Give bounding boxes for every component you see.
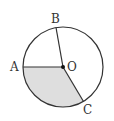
label-b: B xyxy=(51,12,60,26)
diagram-canvas: B A O C xyxy=(0,0,114,121)
label-a: A xyxy=(9,60,19,74)
circle-diagram: B A O C xyxy=(0,0,114,121)
label-o: O xyxy=(67,60,77,74)
radius-ob xyxy=(56,28,63,68)
center-point-o xyxy=(61,65,65,69)
label-c: C xyxy=(83,103,92,117)
